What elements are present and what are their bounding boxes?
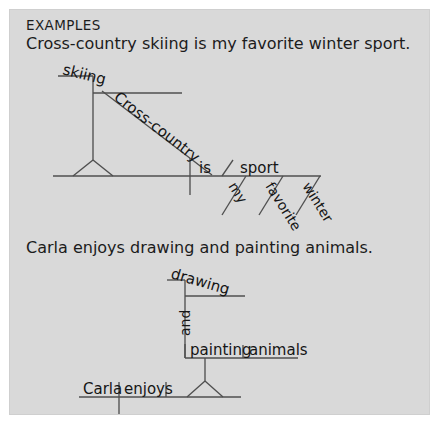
d2-pedestal-left <box>187 381 205 397</box>
textbook-page: EXAMPLES Cross-country skiing is my favo… <box>0 0 442 428</box>
d2-label-gerund-object: animals <box>249 341 308 359</box>
d2-pedestal-right <box>205 381 223 397</box>
diagram-2: drawing and painting animals Carla enjoy… <box>0 0 442 428</box>
d2-label-gerund-2: painting <box>190 341 251 359</box>
d2-label-conjunction: and <box>177 310 193 336</box>
d2-label-verb: enjoys <box>124 380 173 398</box>
d2-label-subject: Carla <box>83 380 122 398</box>
d2-label-gerund-1: drawing <box>169 265 232 299</box>
